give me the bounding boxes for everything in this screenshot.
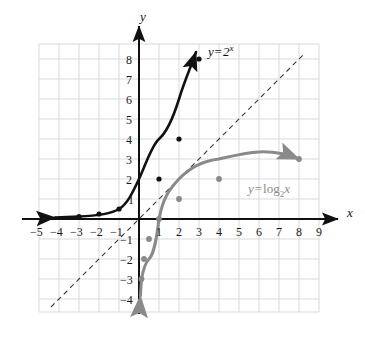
y-tick-neg3: −3 [120,274,133,286]
y-tick-7: 7 [126,74,132,86]
curve-logarithm [139,152,302,296]
axes [22,26,338,314]
x-tick-7: 7 [276,226,282,238]
x-tick-1: 1 [156,226,162,238]
y-tick-8: 8 [126,54,132,66]
y-tick-4: 4 [126,134,132,146]
y-tick-3: 3 [126,154,132,166]
logarithm-curve-label: y=log2x [248,182,290,195]
y-tick-5: 5 [126,114,132,126]
x-tick-9: 9 [316,226,322,238]
logarithm-label-function: log [263,181,280,196]
coordinate-plane [0,0,365,340]
x-tick-2: 2 [176,226,182,238]
y-tick-6: 6 [126,94,132,106]
exponential-label-equals: = [214,44,223,59]
x-tick-4: 4 [216,226,222,238]
x-tick-neg5: −5 [30,226,43,238]
x-axis-label: x [347,206,353,219]
y-tick-1: 1 [128,194,134,206]
graph-figure: y x −5 −4 −3 −2 −1 1 2 3 4 5 6 7 8 9 8 7… [0,0,365,340]
y-tick-2: 2 [126,174,132,186]
y-tick-neg1: −1 [120,234,133,246]
exponential-curve-label: y=2x [208,45,234,58]
x-tick-6: 6 [256,226,262,238]
exponential-label-exponent: x [230,43,234,53]
x-tick-8: 8 [296,226,302,238]
y-axis-label: y [140,10,146,23]
x-tick-3: 3 [196,226,202,238]
logarithm-label-equals: = [254,181,263,196]
y-tick-neg4: −4 [120,294,133,306]
x-tick-neg3: −3 [70,226,83,238]
y-tick-neg2: −2 [120,254,133,266]
x-tick-neg4: −4 [50,226,63,238]
x-tick-neg2: −2 [90,226,103,238]
x-tick-5: 5 [236,226,242,238]
logarithm-label-argument: x [284,181,290,196]
